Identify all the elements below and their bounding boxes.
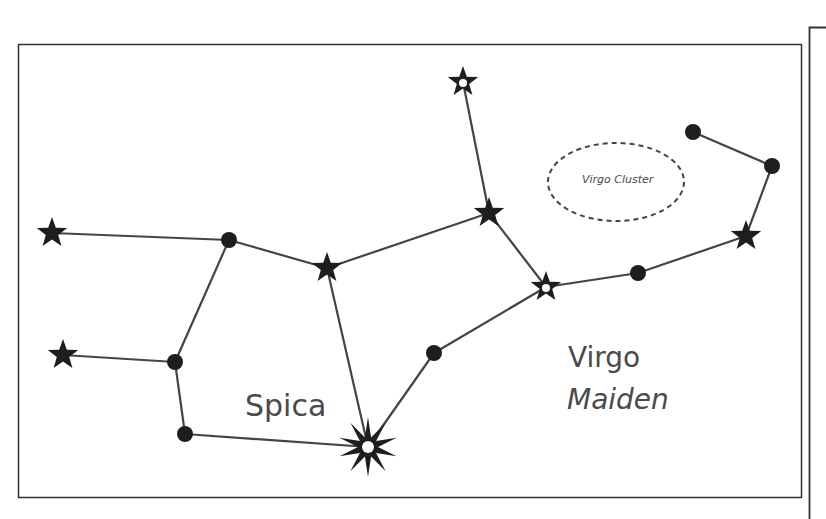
constellation-line (185, 434, 368, 447)
star-dot-icon (685, 124, 701, 140)
constellation-line (63, 355, 175, 362)
constellation-line (638, 236, 746, 273)
chart-frame (19, 45, 802, 498)
star-dot-icon (167, 354, 183, 370)
constellation-meaning-label: Maiden (567, 383, 669, 416)
star-dot-icon (221, 232, 237, 248)
constellation-name-label: Virgo (568, 341, 640, 374)
constellation-line (52, 233, 229, 240)
bright-star-icon (448, 66, 478, 95)
constellation-line (327, 213, 489, 268)
spica-star-icon (340, 417, 397, 477)
constellation-line (546, 273, 638, 287)
star-icon (48, 339, 78, 368)
star-dot-icon (177, 426, 193, 442)
bright-star-icon (531, 271, 561, 300)
constellation-line (175, 240, 229, 362)
outer-frame (810, 28, 826, 519)
constellation-line (463, 82, 489, 213)
constellation-chart (0, 0, 826, 519)
constellation-line (434, 287, 546, 353)
constellation-line (229, 240, 327, 268)
star-icon (474, 197, 504, 226)
constellation-line (327, 268, 368, 447)
star-icon (312, 252, 342, 281)
star-icon (731, 220, 761, 249)
constellation-line (175, 362, 185, 434)
star-dot-icon (426, 345, 442, 361)
spica-label: Spica (245, 388, 326, 423)
star-icon (37, 217, 67, 246)
constellation-line (693, 132, 772, 166)
star-dot-icon (630, 265, 646, 281)
virgo-cluster-label: Virgo Cluster (582, 173, 653, 186)
constellation-line (746, 166, 772, 236)
star-dot-icon (764, 158, 780, 174)
